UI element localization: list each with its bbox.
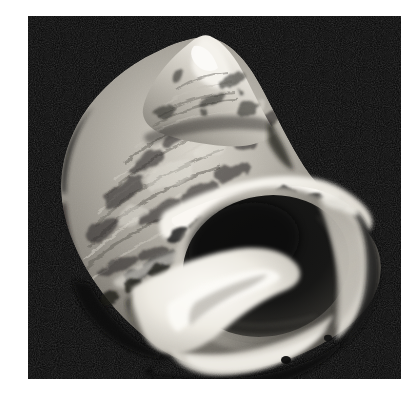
photograph-frame <box>28 16 401 379</box>
shell-photograph <box>28 16 401 379</box>
overall-film-grain <box>28 16 401 379</box>
page-canvas: Black and white photograph of a marine s… <box>0 0 418 402</box>
